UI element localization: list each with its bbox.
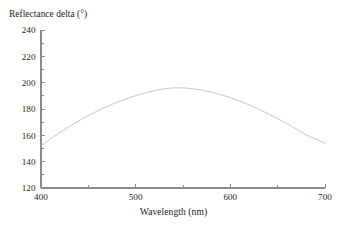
x-tick-label: 700 xyxy=(318,192,332,202)
y-tick-label: 160 xyxy=(22,131,36,141)
x-axis-ticks xyxy=(41,184,325,188)
x-tick-label: 600 xyxy=(223,192,237,202)
chart-figure: Reflectance delta (°) 120140160180200220… xyxy=(0,0,347,229)
x-axis-title: Wavelength (nm) xyxy=(0,205,347,218)
y-tick-label: 240 xyxy=(22,25,36,35)
y-axis-tick-labels: 120140160180200220240 xyxy=(22,25,36,193)
y-tick-label: 180 xyxy=(22,104,36,114)
axis-lines xyxy=(41,30,325,188)
y-tick-label: 140 xyxy=(22,157,36,167)
y-tick-label: 220 xyxy=(22,52,36,62)
x-axis-tick-labels: 400500600700 xyxy=(34,192,332,202)
y-tick-label: 200 xyxy=(22,78,36,88)
plot-area: 120140160180200220240 400500600700 xyxy=(0,0,347,229)
x-tick-label: 400 xyxy=(34,192,48,202)
data-series-layer xyxy=(41,88,325,146)
y-axis-ticks xyxy=(41,30,45,188)
data-line xyxy=(41,88,325,146)
x-tick-label: 500 xyxy=(129,192,143,202)
